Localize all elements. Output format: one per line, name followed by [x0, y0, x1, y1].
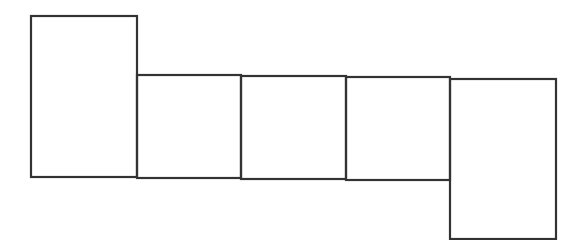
net-face-4: [346, 77, 450, 180]
diagram-canvas: [0, 0, 583, 240]
net-faces: [31, 16, 556, 239]
net-face-1: [31, 16, 137, 177]
net-face-3: [241, 76, 346, 179]
net-face-5: [450, 79, 556, 239]
prism-net-diagram: [0, 0, 583, 240]
net-face-2: [137, 75, 241, 178]
